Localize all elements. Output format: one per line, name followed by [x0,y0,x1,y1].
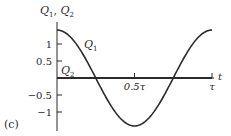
q1-q2-plot: 10.5−0.5−1 0.5ττ Q1, Q2 t Q1 Q2 (c) [0,0,231,136]
x-axis-label: t [218,71,223,82]
q2-series-label: Q2 [61,64,75,79]
y-tick-label: 0.5 [36,56,52,67]
plot-canvas: 10.5−0.5−1 0.5ττ Q1, Q2 t Q1 Q2 (c) [0,0,231,136]
x-ticks: 0.5ττ [124,73,215,92]
y-tick-label: −0.5 [28,90,52,101]
x-tick-label: 0.5τ [124,81,146,92]
q1-series-label: Q1 [84,38,98,53]
y-axis-label: Q1, Q2 [40,4,74,19]
y-tick-label: −1 [37,107,52,118]
panel-label: (c) [4,118,19,131]
y-tick-label: 1 [46,39,52,50]
x-tick-label: τ [209,81,215,92]
